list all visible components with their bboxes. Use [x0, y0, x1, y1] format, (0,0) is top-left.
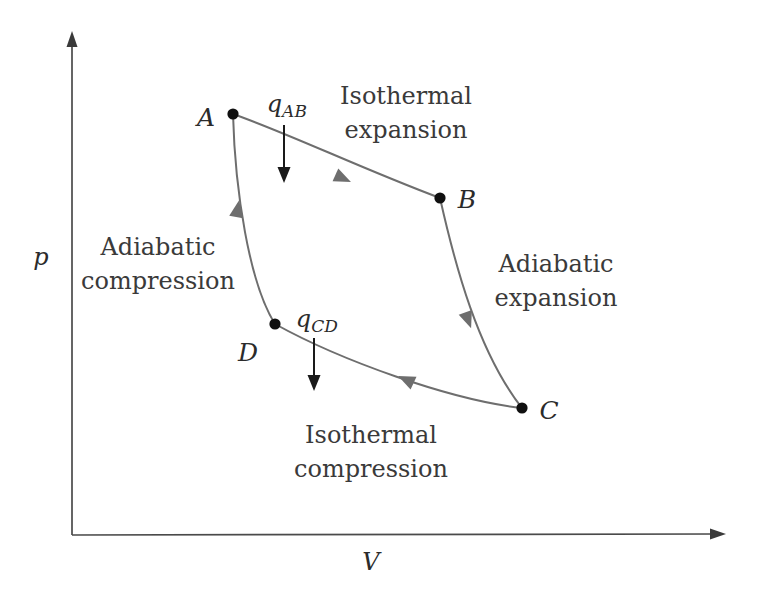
process-label-adiabatic-expansion-line2: expansion: [495, 281, 618, 315]
state-point-dots-group: [227, 108, 527, 413]
process-label-isothermal-expansion-line1: Isothermal: [340, 79, 472, 113]
heat-arrow-qcd-arrowhead-icon: [308, 375, 321, 391]
x-axis-line: [72, 534, 714, 535]
process-label-isothermal-compression-line1: Isothermal: [294, 418, 448, 452]
x-axis-arrowhead: [710, 529, 726, 540]
curve-adiabatic-compression-da: [233, 114, 275, 324]
y-axis-arrowhead: [67, 31, 78, 47]
y-axis-label: p: [33, 245, 48, 269]
state-point-c-dot: [516, 402, 527, 413]
curve-isothermal-compression-cd: [275, 324, 522, 408]
heat-label-qab-subscript: AB: [282, 101, 307, 121]
process-label-adiabatic-expansion: Adiabatic expansion: [495, 247, 618, 315]
process-label-isothermal-expansion-line2: expansion: [340, 113, 472, 147]
process-label-adiabatic-compression: Adiabatic compression: [81, 230, 235, 298]
heat-label-qcd-subscript: CD: [311, 316, 338, 336]
direction-arrow-cd-icon: [395, 370, 416, 390]
process-label-isothermal-compression: Isothermal compression: [294, 418, 448, 486]
x-axis-label: V: [362, 550, 379, 574]
heat-label-qab-symbol: q: [267, 90, 282, 118]
state-point-d-dot: [269, 318, 280, 329]
state-label-a: A: [197, 105, 215, 130]
state-label-d: D: [238, 340, 258, 365]
process-label-adiabatic-compression-line2: compression: [81, 264, 235, 298]
process-label-adiabatic-compression-line1: Adiabatic: [81, 230, 235, 264]
process-label-adiabatic-expansion-line1: Adiabatic: [495, 247, 618, 281]
direction-arrow-da-icon: [229, 199, 246, 218]
heat-label-qab: qAB: [267, 92, 308, 120]
state-point-b-dot: [434, 192, 445, 203]
state-point-a-dot: [227, 108, 238, 119]
heat-flow-arrows-group: [278, 125, 321, 391]
cycle-curves-group: [233, 114, 522, 408]
heat-arrow-qab-arrowhead-icon: [278, 167, 291, 183]
state-label-c: C: [539, 398, 558, 423]
process-label-isothermal-compression-line2: compression: [294, 452, 448, 486]
process-label-isothermal-expansion: Isothermal expansion: [340, 79, 472, 147]
pv-diagram-figure: p V A B C D qAB qCD Isothermal expansion…: [0, 0, 760, 600]
heat-label-qcd: qCD: [296, 307, 338, 335]
direction-arrow-ab-icon: [333, 169, 354, 189]
state-label-b: B: [458, 187, 476, 212]
heat-label-qcd-symbol: q: [296, 305, 311, 333]
